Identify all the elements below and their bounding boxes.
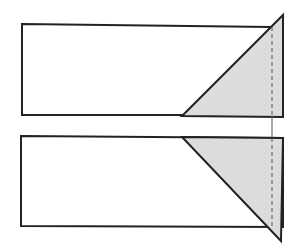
top-panel — [22, 15, 283, 117]
bottom-panel — [21, 136, 283, 241]
fold-diagram — [0, 0, 290, 251]
